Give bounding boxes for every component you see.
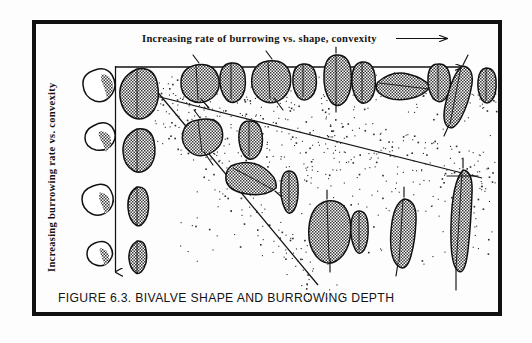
shell-shallow-4 xyxy=(293,64,317,100)
deep-burrower-group xyxy=(309,158,478,290)
reference-shell-lateral-4 xyxy=(87,242,113,266)
reference-shell-lateral-3 xyxy=(82,184,113,215)
shell-shallow-10 xyxy=(478,68,496,103)
shell-intermediate-3 xyxy=(226,162,285,200)
shell-deep-3 xyxy=(391,187,416,276)
reference-lateral-views xyxy=(82,69,115,266)
shell-intermediate-2 xyxy=(239,121,263,159)
shell-deep-2 xyxy=(351,211,368,253)
shallow-burrower-group xyxy=(181,47,496,136)
figure-caption: FIGURE 6.3. BIVALVE SHAPE AND BURROWING … xyxy=(58,291,394,305)
reference-shell-dorsal-4 xyxy=(129,241,147,274)
shell-intermediate-4 xyxy=(281,171,298,213)
figure-root: Increasing rate of burrowing vs. shape, … xyxy=(0,0,532,343)
reference-shell-lateral-2 xyxy=(85,123,115,152)
reference-shell-dorsal-1 xyxy=(120,69,159,119)
intermediate-burrower-group xyxy=(182,110,298,213)
reference-shell-dorsal-3 xyxy=(128,187,149,226)
shell-deep-1 xyxy=(309,190,351,272)
shell-shallow-6 xyxy=(352,62,376,103)
shell-shallow-5 xyxy=(324,47,352,112)
reference-shell-dorsal-2 xyxy=(123,129,155,172)
shell-shallow-1 xyxy=(181,55,219,108)
shell-shallow-3 xyxy=(252,51,291,110)
reference-dorsal-views xyxy=(120,69,159,274)
x-axis-label: Increasing rate of burrowing vs. shape, … xyxy=(142,33,377,44)
y-axis-label: Increasing burrowing rate vs. convexity xyxy=(46,82,57,272)
shell-deep-4 xyxy=(447,158,478,290)
figure-canvas: Increasing rate of burrowing vs. shape, … xyxy=(0,0,532,343)
shell-intermediate-1 xyxy=(182,110,222,165)
reference-shell-lateral-1 xyxy=(83,69,115,102)
shell-shallow-2 xyxy=(220,63,246,103)
